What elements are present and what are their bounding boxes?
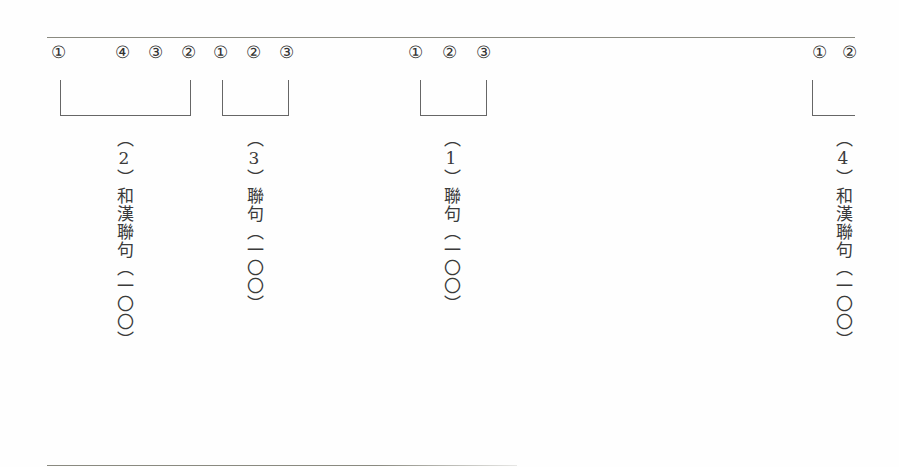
marker-b2: ② — [246, 42, 261, 62]
marker-a1: ① — [51, 42, 66, 62]
label-open-paren: ︵ — [833, 130, 853, 148]
label-count: ︵一〇〇︶ — [833, 259, 853, 349]
label-number: 3 — [244, 148, 264, 169]
label-count: ︵一〇〇︶ — [114, 259, 134, 349]
label-open-paren: ︵ — [441, 130, 461, 148]
label-open-paren: ︵ — [244, 130, 264, 148]
marker-a3: ③ — [148, 42, 163, 62]
label-close-paren: ︶ — [441, 169, 461, 187]
marker-d2: ② — [842, 42, 857, 62]
label-close-paren: ︶ — [114, 169, 134, 187]
label-close-paren: ︶ — [244, 169, 264, 187]
marker-b1: ① — [213, 42, 228, 62]
label-open-paren: ︵ — [114, 130, 134, 148]
label-title: 聯句 — [244, 187, 264, 223]
marker-c1: ① — [408, 42, 423, 62]
label-close-paren: ︶ — [833, 169, 853, 187]
marker-a4: ④ — [115, 42, 130, 62]
marker-d1: ① — [812, 42, 827, 62]
label-title: 和漢聯句 — [833, 187, 853, 259]
marker-c2: ② — [442, 42, 457, 62]
marker-a2: ② — [181, 42, 196, 62]
label-col-2: ︵2︶和漢聯句︵一〇〇︶ — [114, 130, 134, 349]
label-number: 1 — [441, 148, 461, 169]
label-number: 2 — [114, 148, 134, 169]
label-title: 聯句 — [441, 187, 461, 223]
label-count: ︵一〇〇︶ — [244, 223, 264, 313]
label-number: 4 — [833, 148, 853, 169]
bottom-rule — [47, 465, 517, 466]
label-col-4: ︵4︶和漢聯句︵一〇〇︶ — [833, 130, 853, 349]
label-title: 和漢聯句 — [114, 187, 134, 259]
label-count: ︵一〇〇︶ — [441, 223, 461, 313]
marker-c3: ③ — [476, 42, 491, 62]
label-col-3: ︵3︶聯句︵一〇〇︶ — [244, 130, 264, 313]
marker-b3: ③ — [279, 42, 294, 62]
top-rule — [47, 37, 855, 38]
label-col-1: ︵1︶聯句︵一〇〇︶ — [441, 130, 461, 313]
